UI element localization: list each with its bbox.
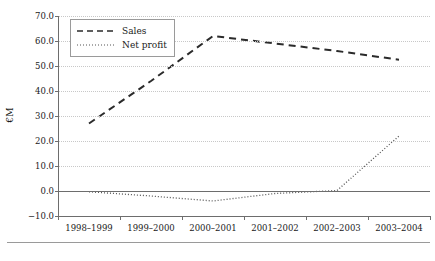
x-axis-tick-mark [368, 216, 369, 220]
y-axis-tick-label: 30.0 [35, 111, 54, 121]
y-axis-tick-labels: −10.00.010.020.030.040.050.060.070.0 [18, 0, 54, 230]
gridline [59, 141, 430, 142]
legend-item-sales: Sales [76, 24, 167, 38]
zero-baseline [59, 191, 430, 192]
y-axis-tick-label: 10.0 [35, 161, 54, 171]
y-axis-tick-label: 70.0 [35, 11, 54, 21]
y-axis-tick-label: 60.0 [35, 36, 54, 46]
x-axis-tick-label: 1998–1999 [65, 223, 113, 233]
gridline [59, 66, 430, 67]
legend-swatch-dotted-icon [76, 40, 116, 50]
legend-label-sales: Sales [122, 27, 146, 36]
y-axis-title-text: €M [5, 107, 15, 122]
chart-legend: Sales Net profit [70, 19, 175, 57]
x-axis-tick-label: 2000–2001 [189, 223, 237, 233]
y-axis-title: €M [2, 0, 18, 230]
line-chart: €M −10.00.010.020.030.040.050.060.070.0 … [0, 0, 435, 261]
x-axis-tick-label: 2001–2002 [251, 223, 299, 233]
legend-label-net-profit: Net profit [122, 41, 167, 50]
bottom-rule [7, 242, 430, 243]
x-axis: 1998–19991999–20002000–20012001–20022002… [58, 216, 430, 261]
legend-swatch-dashed-icon [76, 26, 116, 36]
y-axis-tick-label: −10.0 [28, 211, 54, 221]
gridline [59, 116, 430, 117]
x-axis-tick-mark [244, 216, 245, 220]
x-axis-tick-label: 1999–2000 [127, 223, 175, 233]
x-axis-tick-mark [182, 216, 183, 220]
x-axis-tick-mark [306, 216, 307, 220]
x-axis-tick-mark [430, 216, 431, 220]
legend-item-net-profit: Net profit [76, 38, 167, 52]
x-axis-tick-label: 2003–2004 [375, 223, 423, 233]
y-axis-tick-label: 0.0 [40, 186, 54, 196]
y-axis-tick-label: 20.0 [35, 136, 54, 146]
y-axis-tick-label: 40.0 [35, 86, 54, 96]
gridline [59, 91, 430, 92]
x-axis-tick-mark [58, 216, 59, 220]
gridline [59, 166, 430, 167]
y-axis-tick-label: 50.0 [35, 61, 54, 71]
x-axis-tick-mark [120, 216, 121, 220]
gridline [59, 16, 430, 17]
x-axis-tick-label: 2002–2003 [313, 223, 361, 233]
